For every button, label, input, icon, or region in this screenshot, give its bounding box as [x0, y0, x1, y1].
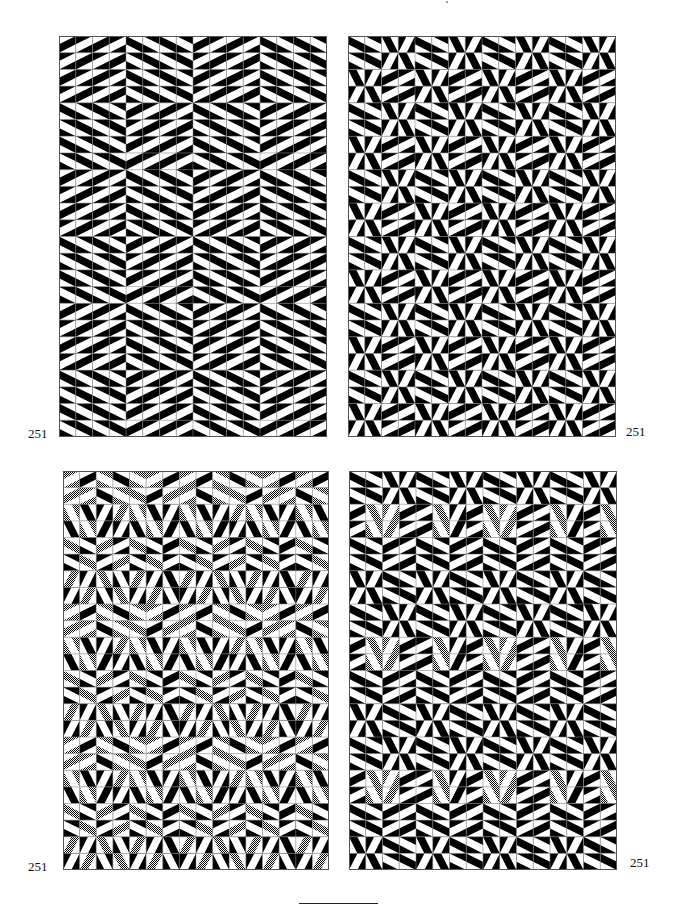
plate-number-top-right: 251 — [626, 425, 646, 438]
tile-grid — [59, 36, 327, 437]
plate-number-bottom-right: 251 — [630, 856, 650, 869]
footer-rule — [299, 903, 378, 904]
header-mark — [446, 1, 448, 3]
pattern-panel-top-right — [348, 36, 616, 437]
pattern-panel-bottom-left — [63, 471, 329, 870]
tile-grid — [349, 471, 617, 870]
pattern-panel-bottom-right — [349, 471, 617, 870]
plate-number-bottom-left: 251 — [28, 860, 48, 873]
pattern-panel-top-left — [59, 36, 327, 437]
tile-grid — [348, 36, 616, 437]
plate-number-top-left: 251 — [28, 427, 48, 440]
tile-grid — [63, 471, 329, 870]
